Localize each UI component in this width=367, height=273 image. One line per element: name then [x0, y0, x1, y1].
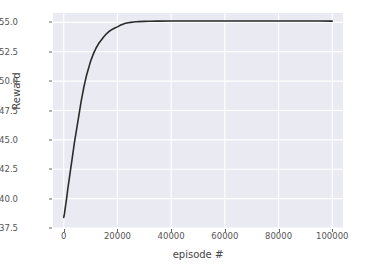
x-tick-label: 80000	[265, 232, 292, 241]
y-tick-label: 40.0	[0, 194, 18, 203]
x-tick-label: 60000	[211, 232, 238, 241]
x-tick-label: 0	[61, 232, 66, 241]
y-tick-mark	[49, 198, 52, 199]
x-tick-mark	[117, 229, 118, 232]
y-axis-label: Reward	[12, 56, 22, 126]
x-tick-label: 100000	[316, 232, 348, 241]
series-line-reward	[64, 21, 333, 217]
y-tick-mark	[49, 81, 52, 82]
y-tick-mark	[49, 228, 52, 229]
y-tick-mark	[49, 139, 52, 140]
x-tick-mark	[171, 229, 172, 232]
reward-line-series	[53, 13, 343, 228]
y-tick-mark	[49, 22, 52, 23]
plot-area	[53, 13, 343, 228]
y-tick-mark	[49, 51, 52, 52]
x-tick-mark	[332, 229, 333, 232]
y-tick-label: 37.5	[0, 224, 18, 233]
x-tick-label: 40000	[158, 232, 185, 241]
y-tick-label: 55.0	[0, 18, 18, 27]
y-tick-label: 45.0	[0, 136, 18, 145]
y-tick-mark	[49, 110, 52, 111]
x-tick-mark	[225, 229, 226, 232]
chart-figure: 37.540.042.545.047.550.052.555.0 0200004…	[0, 0, 367, 273]
x-tick-mark	[64, 229, 65, 232]
x-tick-label: 20000	[104, 232, 131, 241]
x-axis-label: episode #	[53, 250, 343, 260]
y-tick-mark	[49, 169, 52, 170]
y-tick-label: 42.5	[0, 165, 18, 174]
y-tick-label: 52.5	[0, 48, 18, 57]
x-tick-mark	[279, 229, 280, 232]
